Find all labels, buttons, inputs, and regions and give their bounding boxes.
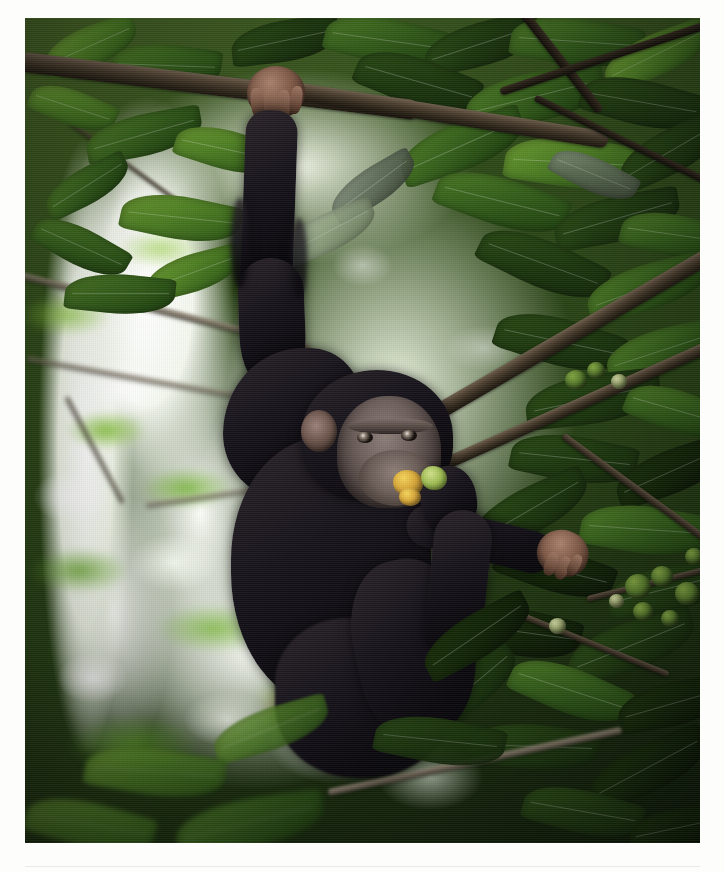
ear bbox=[301, 410, 337, 452]
photograph bbox=[25, 18, 700, 843]
eye-right bbox=[401, 430, 417, 441]
page-canvas bbox=[0, 0, 724, 872]
eye-left bbox=[357, 432, 373, 443]
chimpanzee bbox=[25, 18, 700, 843]
fig-fruit-held bbox=[421, 466, 447, 490]
brow-ridge bbox=[347, 418, 433, 434]
arm-fur-tuft bbox=[291, 218, 307, 298]
page-divider-rule bbox=[25, 866, 700, 867]
fig-fruit-held bbox=[399, 488, 421, 506]
arm-fur-tuft bbox=[231, 198, 249, 288]
